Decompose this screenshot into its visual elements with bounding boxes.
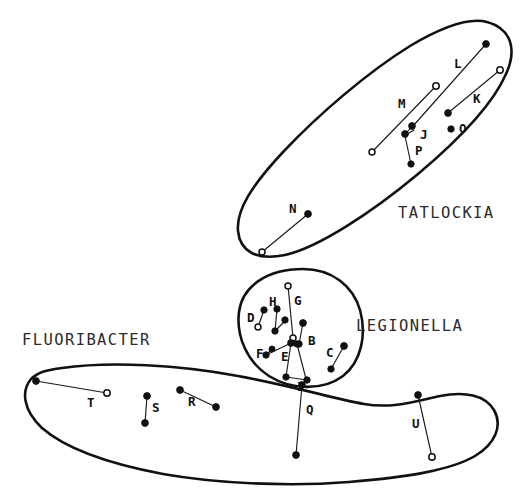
pair-line-P bbox=[405, 136, 411, 164]
pair-label-N: N bbox=[289, 201, 297, 216]
node-dot-O bbox=[448, 126, 454, 132]
group-label-fluoribacter: FLUORIBACTER bbox=[22, 331, 151, 349]
node-dot-U-end bbox=[429, 454, 435, 460]
pair-label-P: P bbox=[415, 143, 423, 158]
node-dot-H-mid bbox=[282, 317, 288, 323]
pair-label-L: L bbox=[454, 56, 462, 71]
pair-line-T bbox=[36, 381, 107, 393]
node-dot-B-start bbox=[300, 320, 307, 327]
node-dot-D-end bbox=[255, 324, 261, 330]
node-dot-E-top2 bbox=[294, 341, 300, 347]
pair-label-G: G bbox=[294, 293, 302, 308]
node-dot-G-start bbox=[285, 283, 291, 289]
pair-label-S: S bbox=[152, 400, 160, 415]
pair-line-N bbox=[262, 214, 308, 252]
group-label-tatlockia: TATLOCKIA bbox=[398, 204, 495, 222]
node-dot-C-end bbox=[328, 366, 334, 372]
pair-label-F: F bbox=[256, 346, 264, 361]
pair-line-R bbox=[180, 390, 216, 407]
pair-line-U bbox=[418, 395, 432, 457]
node-dot-K-start bbox=[497, 67, 503, 73]
node-dot-T-end bbox=[104, 390, 110, 396]
node-dot-H-end bbox=[272, 328, 278, 334]
pair-label-R: R bbox=[188, 394, 196, 409]
pair-line-S bbox=[145, 396, 147, 423]
node-dot-S-start bbox=[144, 393, 151, 400]
pair-label-M: M bbox=[398, 96, 406, 111]
pair-label-B: B bbox=[308, 333, 316, 348]
pair-line-E2 bbox=[297, 344, 306, 379]
pair-label-Q: Q bbox=[306, 402, 314, 417]
node-dot-J-a bbox=[409, 123, 416, 130]
pair-label-J: J bbox=[420, 127, 428, 142]
node-dot-M-end bbox=[369, 149, 375, 155]
pair-label-D: D bbox=[247, 310, 255, 325]
pair-label-E: E bbox=[281, 349, 289, 364]
node-dot-M-start bbox=[433, 83, 439, 89]
figure-canvas: B C D E F G H I J K L M N O P Q R S T U … bbox=[0, 0, 529, 498]
node-dot-J-b bbox=[402, 131, 409, 138]
caption-strip bbox=[0, 484, 529, 498]
node-dot-R-start bbox=[177, 387, 184, 394]
node-dot-Q-end bbox=[293, 452, 300, 459]
node-dot-I-left bbox=[283, 374, 289, 380]
node-dot-N-end bbox=[259, 249, 265, 255]
pair-label-T: T bbox=[87, 395, 95, 410]
node-dot-S-end bbox=[142, 420, 149, 427]
pair-label-I: I bbox=[297, 379, 305, 394]
pair-label-U: U bbox=[412, 416, 420, 431]
node-dot-T-start bbox=[33, 378, 40, 385]
node-dot-P-end bbox=[408, 161, 414, 167]
node-dot-D-start bbox=[261, 307, 267, 313]
group-label-legionella: LEGIONELLA bbox=[356, 317, 463, 335]
node-dot-E-top bbox=[288, 340, 295, 347]
node-dot-C-start bbox=[341, 343, 348, 350]
pair-label-H: H bbox=[269, 294, 277, 309]
figure-root: B C D E F G H I J K L M N O P Q R S T U … bbox=[0, 0, 529, 498]
pair-label-C: C bbox=[326, 345, 334, 360]
node-dot-F-start bbox=[263, 352, 269, 358]
node-dot-U-start bbox=[415, 392, 422, 399]
group-outline-fluoribacter bbox=[25, 365, 498, 485]
pair-line-G bbox=[288, 286, 293, 338]
node-dot-N-start bbox=[305, 211, 312, 218]
node-dot-R-end bbox=[213, 404, 220, 411]
pair-label-O: O bbox=[459, 121, 467, 136]
pair-line-Q bbox=[296, 385, 302, 455]
node-dot-F-mid bbox=[269, 346, 275, 352]
group-outline-layer bbox=[25, 21, 511, 484]
node-dot-L-start bbox=[483, 41, 490, 48]
node-dot-K-end bbox=[445, 110, 452, 117]
pair-label-K: K bbox=[473, 91, 481, 106]
node-dot-I-right bbox=[304, 377, 310, 383]
